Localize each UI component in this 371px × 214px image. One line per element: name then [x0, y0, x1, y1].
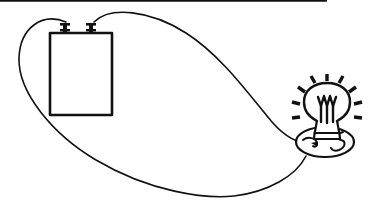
- battery[interactable]: [50, 23, 112, 115]
- ray-icon-7: [292, 102, 300, 104]
- right-terminal-screw-lower: [86, 29, 96, 31]
- left-terminal-screw-upper: [60, 23, 70, 26]
- ray-icon-8: [292, 117, 300, 118]
- left-terminal-screw-lower: [60, 29, 70, 31]
- circuit-svg: [0, 0, 371, 214]
- ray-icon-5: [311, 76, 315, 83]
- ray-icon-3: [354, 102, 362, 104]
- ray-icon-2: [349, 87, 356, 92]
- right-terminal[interactable]: [86, 23, 96, 33]
- upper-wire: [94, 12, 312, 144]
- left-terminal[interactable]: [60, 23, 70, 33]
- ray-icon-1: [339, 76, 343, 83]
- battery-body: [50, 33, 112, 115]
- right-terminal-screw-upper: [86, 23, 96, 26]
- ray-icon-6: [298, 87, 305, 92]
- ray-icon-4: [354, 117, 362, 118]
- circuit-diagram: Simple electric circuit Hand-drawn line …: [0, 0, 371, 214]
